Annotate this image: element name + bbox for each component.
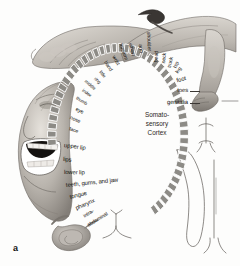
center-caption: Somato- sensory Cortex (126, 110, 188, 138)
caption-line-1: Somato- (126, 110, 188, 119)
band-label-arm: arm (137, 44, 144, 53)
band-label-hand: hand (102, 60, 113, 73)
band-label-neck: neck (161, 53, 168, 64)
band-label-tongue: tongue (69, 191, 87, 201)
homunculus-figure: toesgenitaliafootleghiptrunkneckheadshou… (0, 0, 240, 266)
band-label-thumb: thumb (75, 95, 88, 106)
figure-letter: a (13, 243, 18, 253)
band-label-eye: eye (74, 107, 84, 116)
band-label-teeth-gums-and-jaw: teeth, gums, and jaw (66, 178, 119, 189)
band-label-head: head (154, 51, 160, 62)
band-label-nose: nose (69, 115, 81, 125)
caption-line-2: sensory (126, 119, 188, 128)
band-label-toes: toes (177, 88, 188, 94)
band-label-lips: lips (63, 157, 72, 164)
band-label-foot: foot (176, 76, 187, 84)
label-leader-line (190, 91, 200, 92)
band-label-elbow: elbow (127, 43, 136, 57)
caption-line-3: Cortex (126, 128, 188, 137)
band-label-wrist: wrist (111, 55, 121, 67)
band-label-lower-lip: lower lip (64, 170, 85, 176)
band-label-little: little (98, 70, 107, 79)
band-label-genitalia: genitalia (167, 100, 188, 106)
band-labels: toesgenitaliafootleghiptrunkneckheadshou… (0, 0, 240, 266)
band-label-ring: ring (93, 76, 102, 85)
band-label-face: face (68, 126, 79, 134)
band-label-upper-lip: upper lip (64, 143, 86, 152)
label-leader-line (190, 103, 200, 104)
band-label-shoulder: shoulder (145, 32, 152, 51)
